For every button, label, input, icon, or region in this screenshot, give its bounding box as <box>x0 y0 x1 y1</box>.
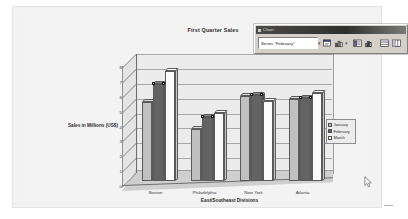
bar-philadelphia-january[interactable] <box>191 129 202 181</box>
bar-side <box>175 69 178 181</box>
toolbar-controls-row: Series "February" ▾ <box>256 35 406 51</box>
chart-type-icon <box>335 39 344 48</box>
series-selection-handle[interactable] <box>309 96 312 99</box>
bar-new-york-february[interactable] <box>251 95 262 181</box>
gridline <box>136 54 332 55</box>
bar-face <box>312 93 323 181</box>
bar-face <box>263 101 274 181</box>
bar-face <box>289 99 300 181</box>
chart-title[interactable]: First Quarter Sales <box>168 27 258 33</box>
legend-label: January <box>334 122 349 127</box>
bar-boston-january[interactable] <box>142 102 153 181</box>
bar-face <box>191 129 202 181</box>
toolbar-grip-icon <box>258 29 261 32</box>
value-axis-line <box>136 54 137 173</box>
value-axis-tick-label: 3 <box>112 140 122 144</box>
page-break-mark <box>384 205 393 206</box>
value-axis-tick-label: 2 <box>112 155 122 159</box>
value-axis-tick-label: 7 <box>112 81 122 85</box>
value-axis-front-line <box>122 66 123 185</box>
data-table-button[interactable] <box>364 38 375 49</box>
toolbar-title-label: Chart <box>263 27 274 33</box>
series-selection-handle[interactable] <box>299 96 302 99</box>
bar-face <box>153 84 164 181</box>
series-selection-handle[interactable] <box>201 115 204 118</box>
value-axis-tick-label: 8 <box>112 66 122 70</box>
bar-side <box>224 111 227 181</box>
series-selection-handle[interactable] <box>152 82 155 85</box>
bar-face <box>251 95 262 181</box>
value-axis-tick-label: 6 <box>112 96 122 100</box>
series-selection-handle[interactable] <box>260 93 263 96</box>
bar-new-york-january[interactable] <box>240 96 251 181</box>
chart-objects-combobox-value: Series "February" <box>259 39 295 48</box>
bar-atlanta-january[interactable] <box>289 99 300 181</box>
legend-swatch <box>328 123 332 127</box>
legend-button[interactable] <box>352 38 363 49</box>
chart-object[interactable]: First Quarter Sales 012345678 BostonPhil… <box>18 10 374 200</box>
bar-side <box>273 99 276 181</box>
category-label-boston: Boston <box>136 190 176 195</box>
bar-face <box>202 117 213 181</box>
bar-boston-march[interactable] <box>165 71 176 181</box>
chart-legend[interactable]: JanuaryFebruaryMarch <box>326 119 356 144</box>
by-column-button[interactable] <box>391 38 402 49</box>
bar-new-york-march[interactable] <box>263 101 274 181</box>
legend-item-march[interactable]: March <box>328 135 354 142</box>
chart-type-dropdown-arrow-icon[interactable]: ▾ <box>345 38 348 48</box>
legend-swatch <box>328 136 332 140</box>
data-table-icon <box>365 39 374 48</box>
legend-swatch <box>328 129 332 133</box>
category-axis-title[interactable]: East/Southeast Divisions <box>122 198 337 203</box>
bar-face <box>300 98 311 181</box>
category-label-new-york: New York <box>234 190 274 195</box>
bar-side <box>322 91 325 181</box>
series-selection-handle[interactable] <box>162 82 165 85</box>
legend-label: February <box>334 129 350 134</box>
format-dialog-icon <box>323 39 332 48</box>
bar-face <box>214 113 225 181</box>
bar-face <box>165 71 176 181</box>
legend-icon <box>353 39 362 48</box>
bar-philadelphia-february[interactable] <box>202 117 213 181</box>
bar-atlanta-february[interactable] <box>300 98 311 181</box>
category-label-atlanta: Atlanta <box>283 190 323 195</box>
by-row-button[interactable] <box>379 38 390 49</box>
bar-top <box>263 98 276 101</box>
chart-objects-combobox[interactable]: Series "February" <box>258 37 318 49</box>
category-label-philadelphia: Philadelphia <box>185 190 225 195</box>
value-axis-tick-label: 1 <box>112 170 122 174</box>
bar-atlanta-march[interactable] <box>312 93 323 181</box>
bar-face <box>142 102 153 181</box>
by-row-icon <box>380 39 389 48</box>
by-column-icon <box>392 39 401 48</box>
toolbar-title-bar[interactable]: Chart <box>256 26 406 34</box>
value-axis-tick-label: 5 <box>112 111 122 115</box>
chart-type-button[interactable] <box>334 38 345 49</box>
mouse-pointer-icon <box>364 176 373 188</box>
bar-philadelphia-march[interactable] <box>214 113 225 181</box>
bar-top <box>214 110 227 113</box>
plot-area[interactable]: 012345678 BostonPhiladelphiaNew YorkAtla… <box>122 52 337 198</box>
value-axis-tick-label: 0 <box>112 185 122 189</box>
series-selection-handle[interactable] <box>250 93 253 96</box>
value-axis-title[interactable]: Sales in Millions (US$) <box>48 123 118 128</box>
chart-toolbar[interactable]: Chart Series "February" ▾ <box>254 24 408 54</box>
series-selection-handle[interactable] <box>211 115 214 118</box>
bar-face <box>240 96 251 181</box>
bar-boston-february[interactable] <box>153 84 164 181</box>
format-data-series-button[interactable] <box>322 38 333 49</box>
legend-label: March <box>334 135 345 140</box>
combobox-dropdown-arrow-icon[interactable]: ▾ <box>318 38 321 48</box>
